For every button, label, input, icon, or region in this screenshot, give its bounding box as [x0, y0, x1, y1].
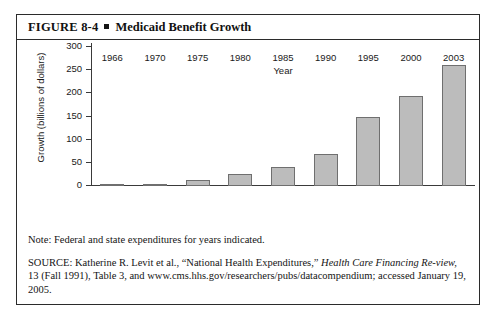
source-text-part1: SOURCE: Katherine R. Levit et al., “Nati…: [28, 257, 321, 268]
bar: [442, 65, 466, 186]
bar: [100, 184, 124, 186]
bar: [228, 174, 252, 186]
x-tick-label: 1970: [134, 52, 177, 63]
x-tick-label: 1995: [347, 52, 390, 63]
y-axis-title: Growth (billions of dollars): [35, 38, 46, 178]
figure-header: FIGURE 8-4 Medicaid Benefit Growth: [17, 15, 479, 40]
y-tick: 50: [86, 162, 91, 163]
note-text: Note: Federal and state expenditures for…: [28, 233, 468, 247]
x-tick-label: 1966: [91, 52, 134, 63]
bar: [356, 117, 380, 186]
y-tick-label: 300: [66, 40, 82, 51]
x-tick-label: 1985: [262, 52, 305, 63]
square-bullet-icon: [104, 24, 109, 29]
chart-region: Growth (billions of dollars) 05010015020…: [17, 40, 479, 240]
bar: [399, 96, 423, 186]
bar: [143, 184, 167, 186]
x-tick-label: 1975: [176, 52, 219, 63]
bar: [186, 180, 210, 186]
y-tick-label: 0: [77, 179, 82, 190]
y-tick-label: 100: [66, 133, 82, 144]
figure-number: FIGURE 8-4: [28, 20, 98, 35]
y-tick: 150: [86, 116, 91, 117]
x-tick-label: 1980: [219, 52, 262, 63]
x-tick-label: 2000: [390, 52, 433, 63]
x-axis-title: Year: [91, 65, 475, 76]
y-tick-label: 250: [66, 63, 82, 74]
source-journal-part2: view,: [436, 257, 457, 268]
bar: [314, 154, 338, 186]
y-tick: 200: [86, 92, 91, 93]
y-tick-label: 50: [71, 156, 82, 167]
source-journal-part1: Health Care Financing Re-: [321, 257, 436, 268]
bar: [271, 167, 295, 186]
y-tick: 300: [86, 46, 91, 47]
figure-box: FIGURE 8-4 Medicaid Benefit Growth Growt…: [16, 14, 480, 305]
source-text-part2: 13 (Fall 1991), Table 3, and www.cms.hhs…: [28, 270, 466, 295]
source-text: SOURCE: Katherine R. Levit et al., “Nati…: [28, 256, 468, 297]
y-tick: 0: [86, 185, 91, 186]
figure-notes: Note: Federal and state expenditures for…: [28, 233, 468, 296]
x-tick-label: 2003: [432, 52, 475, 63]
x-tick-label: 1990: [304, 52, 347, 63]
y-tick-label: 150: [66, 110, 82, 121]
plot-area: 050100150200250300 196619701975198019851…: [91, 47, 475, 186]
y-tick: 100: [86, 139, 91, 140]
y-tick-label: 200: [66, 86, 82, 97]
figure-title: Medicaid Benefit Growth: [115, 20, 251, 35]
